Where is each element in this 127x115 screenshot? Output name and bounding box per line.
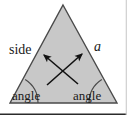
label-a: a: [94, 40, 101, 54]
label-side: side: [9, 43, 32, 57]
triangle-parts-figure: side a angle angle: [0, 0, 127, 115]
label-angle-right: angle: [73, 89, 101, 102]
label-angle-left: angle: [12, 89, 40, 102]
